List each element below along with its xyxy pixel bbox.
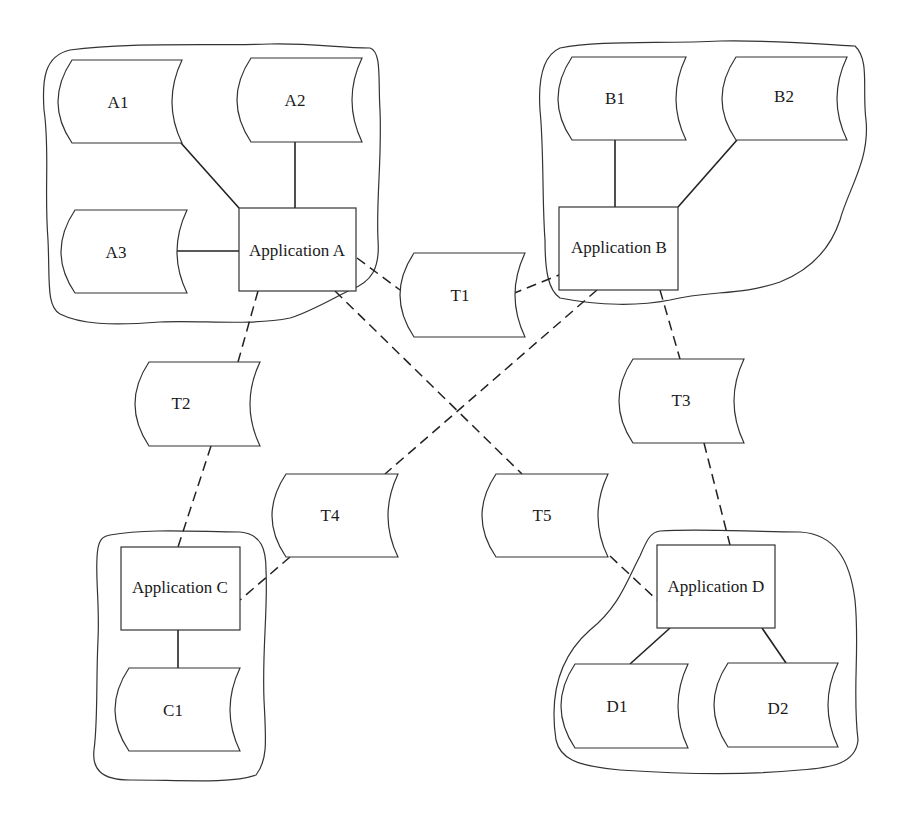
store-t3[interactable]: T3	[619, 359, 744, 443]
store-t2-label: T2	[172, 394, 191, 413]
link-t5-appd	[610, 556, 657, 600]
app-box-b[interactable]: Application B	[559, 207, 678, 290]
app-box-a[interactable]: Application A	[239, 208, 356, 291]
app-b-label: Application B	[571, 238, 667, 257]
store-t1[interactable]: T1	[400, 253, 525, 337]
store-b2[interactable]: B2	[722, 57, 847, 140]
app-a-label: Application A	[249, 241, 346, 260]
app-box-c[interactable]: Application C	[121, 547, 240, 630]
store-a1[interactable]: A1	[58, 60, 182, 143]
link-b2-appb	[678, 140, 737, 207]
link-t1-appb	[512, 275, 559, 294]
link-t4-appc	[240, 557, 290, 600]
store-t4[interactable]: T4	[272, 474, 398, 557]
link-d1-appd	[630, 628, 670, 664]
store-t5-label: T5	[533, 506, 552, 525]
store-a3[interactable]: A3	[61, 210, 187, 293]
app-box-d[interactable]: Application D	[657, 545, 775, 628]
store-d1[interactable]: D1	[561, 664, 688, 748]
store-a1-label: A1	[108, 93, 129, 112]
store-b2-label: B2	[774, 87, 794, 106]
store-b1[interactable]: B1	[558, 57, 686, 140]
store-t2[interactable]: T2	[135, 362, 260, 446]
store-d2[interactable]: D2	[714, 663, 838, 747]
store-t3-label: T3	[672, 391, 691, 410]
store-a3-label: A3	[106, 243, 127, 262]
app-d-label: Application D	[668, 577, 765, 596]
store-d1-label: D1	[607, 697, 628, 716]
link-d2-appd	[762, 628, 786, 663]
store-a2[interactable]: A2	[237, 58, 362, 142]
link-appa-t2	[238, 291, 258, 362]
store-t1-label: T1	[451, 286, 470, 305]
store-a2-label: A2	[285, 91, 306, 110]
store-c1-label: C1	[163, 701, 183, 720]
store-b1-label: B1	[605, 89, 625, 108]
link-appa-t1	[357, 258, 400, 290]
app-c-label: Application C	[132, 578, 228, 597]
store-d2-label: D2	[768, 699, 789, 718]
link-a1-appa	[181, 143, 239, 208]
store-t5[interactable]: T5	[482, 474, 608, 557]
diagram-canvas: A1 A2 A3 B1 B2 C1 D1 D2 T1 T2 T3	[0, 0, 904, 813]
store-t4-label: T4	[321, 506, 340, 525]
store-c1[interactable]: C1	[115, 668, 240, 751]
